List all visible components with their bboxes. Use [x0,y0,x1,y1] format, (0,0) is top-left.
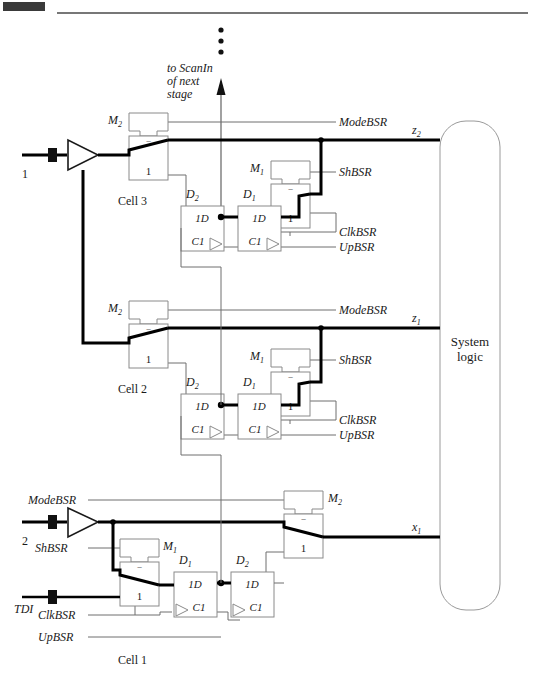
cell3-input-pad [48,148,57,162]
cell1-d2-data: 1D [245,578,259,590]
cell1-input-pad [48,515,57,529]
cell3-input-pin-label: 1 [22,167,28,181]
cell2-d2-data: 1D [195,400,209,412]
cell3-scan-junction [218,214,224,220]
cell3-ff-d1[interactable]: 1D C1 [238,206,281,251]
cell1-upbsr-label: UpBSR [38,630,74,644]
cell3-m2-sel-bot: 1 [146,165,152,177]
cell2-upbsr-label: UpBSR [339,428,375,442]
cell1-tdi-label: TDI [14,602,34,616]
cell2-d1-label: D1 [242,375,256,391]
cell3-m2-label: M2 [107,113,122,129]
cell1-m1-sel-top: ‾ [137,566,142,578]
cell1-m2-sel-top: ‾ [301,518,306,530]
cell1-m2-sel-bot: 1 [301,542,307,554]
vertical-ellipsis-dots [218,27,223,54]
cell2-modebsr-label: ModeBSR [338,303,388,317]
cell2-d2-label: D2 [185,375,199,391]
cell3-d1-data: 1D [252,212,266,224]
cell2-name: Cell 2 [118,382,147,396]
cell1-input-pin-label: 2 [22,534,28,548]
cell3-feedback-net [310,140,321,194]
cell3-ff-d2[interactable]: 1D C1 [181,206,224,251]
cell1-ff-d1[interactable]: 1D C1 [174,572,217,617]
scan-out-caption-line1: to ScanIn [167,61,213,75]
cell1-clkbsr-label: ClkBSR [38,608,76,622]
cell2-ff-d1[interactable]: 1D C1 [238,394,281,439]
cell1-m2-label: M2 [327,491,342,507]
scan-out-caption-line2: of next [167,74,200,88]
cell3-m1-label: M1 [249,161,264,177]
cell1-input-buffer[interactable] [68,508,98,537]
cell2-m1-in1-path [310,401,336,420]
system-logic-block [440,121,500,610]
cell2-d1-clk: C1 [249,423,262,435]
cell2-m2-sel-bot: 1 [146,353,152,365]
cell1-ff-d2[interactable]: 1D C1 [231,572,274,617]
cell2-d2-clk: C1 [192,423,205,435]
cell1-d2-clk: C1 [250,601,263,613]
cell1-name: Cell 1 [118,653,147,667]
cell1-mux-m1[interactable]: ‾ 1 [120,539,159,606]
cell3-output-net-label: z2 [411,123,421,139]
system-logic-label-line1: System [451,334,489,349]
cell1-d2-label: D2 [235,553,249,569]
cell2-ff-d2[interactable]: 1D C1 [181,394,224,439]
cell1-d1-clk: C1 [193,601,206,613]
cell3-d2-data: 1D [195,212,209,224]
cell2-m1-label: M1 [249,349,264,365]
cell3-input-buffer[interactable] [68,140,98,170]
cell2-clkbsr-label: ClkBSR [339,413,377,427]
scan-out-arrow [217,78,226,213]
cell1-shbsr-label: ShBSR [35,541,68,555]
cell1-clkbsr-path [88,612,172,615]
cell1-modebsr-label: ModeBSR [27,493,77,507]
cell2-feedback-junction [318,325,324,331]
cell1-output-net-label: x1 [411,520,421,536]
cell2-d1-data: 1D [252,400,266,412]
cell3-clkbsr-label: ClkBSR [339,225,377,239]
cell1-d1-data: 1D [188,578,202,590]
system-logic-label-line2: logic [457,349,483,364]
cell3-name: Cell 3 [118,194,147,208]
corner-block [3,2,45,11]
cell3-feedback-junction [318,137,324,143]
cell3-modebsr-label: ModeBSR [338,115,388,129]
cell3-d2-label: D2 [185,187,199,203]
cell1-d1-label: D1 [178,553,192,569]
cell2-m2-label: M2 [107,301,122,317]
cell3-m1-sel-top: ‾ [288,188,293,200]
cell3-upbsr-label: UpBSR [339,240,375,254]
cell2-output-net-label: z1 [411,311,421,327]
scan-out-caption-line3: stage [167,87,193,101]
cell1-tdi-pad [48,590,57,604]
cell3-m1-in1-path [310,213,336,232]
cell1-m1-sel-bot: 1 [137,590,143,602]
cell1-mux-m2[interactable]: ‾ 1 [284,491,323,558]
cell1-m1-label: M1 [162,539,177,555]
cell2-m1-sel-top: ‾ [288,376,293,388]
cell3-d2-clk: C1 [192,235,205,247]
cell3-d1-clk: C1 [249,235,262,247]
diagram-canvas: to ScanIn of next stage System logic ‾ 1… [0,0,534,688]
cell2-shbsr-label: ShBSR [339,353,372,367]
cell3-d1-label: D1 [242,187,256,203]
boundary-scan-diagram: to ScanIn of next stage System logic ‾ 1… [0,0,534,688]
cell3-shbsr-label: ShBSR [339,165,372,179]
cell2-feedback-net [310,328,321,382]
